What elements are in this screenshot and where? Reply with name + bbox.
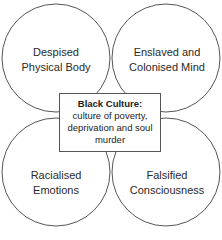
label-line: Emotions <box>33 184 79 196</box>
label-line: Colonised Mind <box>129 61 205 73</box>
label-line: Physical Body <box>21 61 90 73</box>
center-box-line: murder <box>95 134 125 145</box>
center-box-title: Black Culture: <box>60 98 160 110</box>
label-line: Despised <box>33 46 79 58</box>
label-line: Racialised <box>31 169 82 181</box>
label-top-right: Enslaved and Colonised Mind <box>112 45 222 75</box>
center-box-black-culture: Black Culture: culture of poverty, depri… <box>59 93 161 152</box>
center-box-line: culture of poverty, <box>73 110 148 121</box>
label-line: Falsified <box>147 169 188 181</box>
label-bottom-right: Falsified Consciousness <box>112 168 222 198</box>
label-line: Enslaved and <box>134 46 201 58</box>
center-box-line: deprivation and soul <box>67 122 152 133</box>
label-bottom-left: Racialised Emotions <box>6 168 106 198</box>
label-top-left: Despised Physical Body <box>6 45 106 75</box>
label-line: Consciousness <box>130 184 205 196</box>
